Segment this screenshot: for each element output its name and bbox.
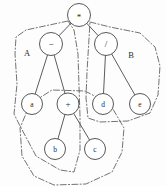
region-label-region-a: A <box>24 48 31 58</box>
tree-edge-div-d <box>104 55 106 93</box>
tree-node-a[interactable]: a <box>22 94 43 115</box>
tree-node-c[interactable]: c <box>85 139 106 160</box>
tree-edge-root-div <box>87 23 98 35</box>
node-label-root: * <box>77 12 82 22</box>
tree-edge-minus-plus <box>54 55 65 93</box>
tree-node-e[interactable]: e <box>130 94 151 115</box>
tree-node-plus[interactable]: + <box>57 93 79 115</box>
node-label-minus: − <box>48 39 53 49</box>
node-label-b: b <box>53 145 57 154</box>
tree-node-d[interactable]: d <box>93 94 114 115</box>
tree-edge-div-e <box>112 54 135 95</box>
tree-node-b[interactable]: b <box>45 139 66 160</box>
tree-edge-minus-a <box>35 55 47 94</box>
tree-node-root[interactable]: * <box>68 4 91 27</box>
tree-node-minus[interactable]: − <box>40 33 63 56</box>
region-label-region-b: B <box>128 50 134 60</box>
node-label-d: d <box>101 100 105 109</box>
tree-edge-plus-b <box>58 115 65 139</box>
region-labels-group: AB <box>24 48 134 60</box>
tree-node-div[interactable]: / <box>95 33 118 56</box>
expression-tree-diagram: *−/a+debc AB <box>0 0 166 186</box>
tree-edge-root-minus <box>59 23 71 35</box>
tree-edge-plus-c <box>74 113 90 140</box>
diagram-canvas: *−/a+debc AB <box>0 0 166 186</box>
node-label-plus: + <box>65 99 70 109</box>
